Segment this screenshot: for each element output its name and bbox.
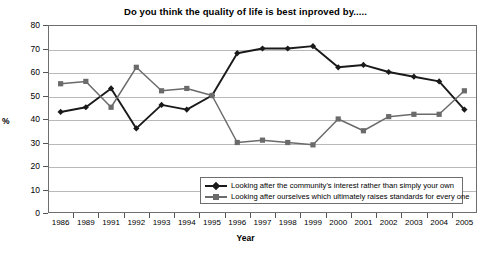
legend-marker-diamond-icon: [205, 181, 227, 191]
gridline: [49, 73, 476, 74]
y-tick-label: 10: [10, 186, 40, 194]
gridline: [49, 144, 476, 145]
y-axis-title: %: [2, 116, 10, 126]
y-tick-label: 70: [10, 45, 40, 53]
legend-label-community: Looking after the community's interest r…: [231, 181, 454, 191]
y-tick-label: 20: [10, 162, 40, 170]
y-tick-label: 80: [10, 21, 40, 29]
legend-item-ourselves: Looking after ourselves which ultimately…: [205, 191, 458, 202]
x-axis-title: Year: [0, 233, 491, 243]
y-tick-label: 50: [10, 92, 40, 100]
y-tick-mark: [43, 119, 48, 120]
y-tick-mark: [43, 143, 48, 144]
y-tick-label: 0: [10, 209, 40, 217]
gridline: [49, 50, 476, 51]
y-tick-label: 30: [10, 139, 40, 147]
y-tick-mark: [43, 166, 48, 167]
y-tick-mark: [43, 25, 48, 26]
y-tick-mark: [43, 72, 48, 73]
legend-marker-square-icon: [205, 192, 227, 202]
gridline: [49, 97, 476, 98]
y-tick-mark: [43, 190, 48, 191]
y-tick-mark: [43, 49, 48, 50]
x-tick-label: 2005: [447, 218, 481, 227]
legend-item-community: Looking after the community's interest r…: [205, 180, 458, 191]
y-tick-label: 60: [10, 68, 40, 76]
gridline: [49, 120, 476, 121]
y-tick-mark: [43, 96, 48, 97]
chart-title: Do you think the quality of life is best…: [0, 6, 491, 17]
legend-label-ourselves: Looking after ourselves which ultimately…: [231, 192, 469, 202]
chart-container: Do you think the quality of life is best…: [0, 0, 491, 259]
y-tick-label: 40: [10, 115, 40, 123]
chart-legend: Looking after the community's interest r…: [200, 177, 463, 204]
gridline: [49, 167, 476, 168]
y-tick-mark: [43, 213, 48, 214]
